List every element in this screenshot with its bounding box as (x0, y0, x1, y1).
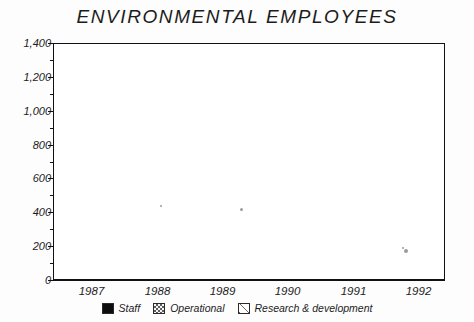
legend-item-operational[interactable]: Operational (153, 302, 224, 314)
x-axis-label-1991: 1991 (319, 285, 389, 297)
x-axis-label-1987: 1987 (57, 285, 127, 297)
y-axis-label-800: 800 (5, 139, 51, 151)
y-axis-minor-tick (50, 128, 53, 129)
scan-artifact (402, 247, 404, 249)
y-axis-tick-200 (48, 246, 53, 247)
y-axis-minor-tick (50, 94, 53, 95)
legend-swatch-diagonal-hatch-icon (238, 303, 250, 314)
y-axis-tick-800 (48, 145, 53, 146)
y-axis-tick-1000 (48, 111, 53, 112)
y-axis-tick-1400 (48, 43, 53, 44)
x-axis-label-1990: 1990 (253, 285, 323, 297)
y-axis-label-600: 600 (5, 172, 51, 184)
gridline-0 (53, 280, 445, 281)
legend-item-staff[interactable]: Staff (102, 302, 141, 314)
scan-artifact (404, 249, 408, 253)
y-axis-minor-tick (50, 162, 53, 163)
legend-swatch-solid-black-icon (102, 303, 114, 314)
scan-artifact (160, 205, 162, 207)
y-axis-tick-0 (48, 280, 53, 281)
y-axis-minor-tick (50, 60, 53, 61)
legend-label: Research & development (255, 302, 373, 314)
y-axis-label-200: 200 (5, 240, 51, 252)
legend-label: Staff (119, 302, 141, 314)
y-axis-tick-1200 (48, 77, 53, 78)
legend-item-research-development[interactable]: Research & development (238, 302, 373, 314)
legend-swatch-checkerboard-icon (153, 303, 165, 314)
legend-label: Operational (170, 302, 224, 314)
y-axis: 02004006008001,0001,2001,400 (0, 43, 51, 280)
y-axis-label-1000: 1,000 (5, 105, 51, 117)
y-axis-label-1400: 1,400 (5, 37, 51, 49)
chart-title: ENVIRONMENTAL EMPLOYEES (0, 6, 474, 28)
y-axis-minor-tick (50, 229, 53, 230)
scan-artifact (240, 208, 243, 211)
x-axis-label-1992: 1992 (384, 285, 454, 297)
chart-page: ENVIRONMENTAL EMPLOYEES 02004006008001,0… (0, 0, 474, 322)
y-axis-label-1200: 1,200 (5, 71, 51, 83)
y-axis-minor-tick (50, 195, 53, 196)
y-axis-label-0: 0 (5, 274, 51, 286)
chart-legend: StaffOperationalResearch & development (0, 302, 474, 314)
y-axis-label-400: 400 (5, 206, 51, 218)
plot-frame (53, 43, 445, 280)
y-axis-tick-600 (48, 178, 53, 179)
y-axis-tick-400 (48, 212, 53, 213)
y-axis-minor-tick (50, 263, 53, 264)
x-axis-label-1988: 1988 (123, 285, 193, 297)
x-axis-label-1989: 1989 (188, 285, 258, 297)
